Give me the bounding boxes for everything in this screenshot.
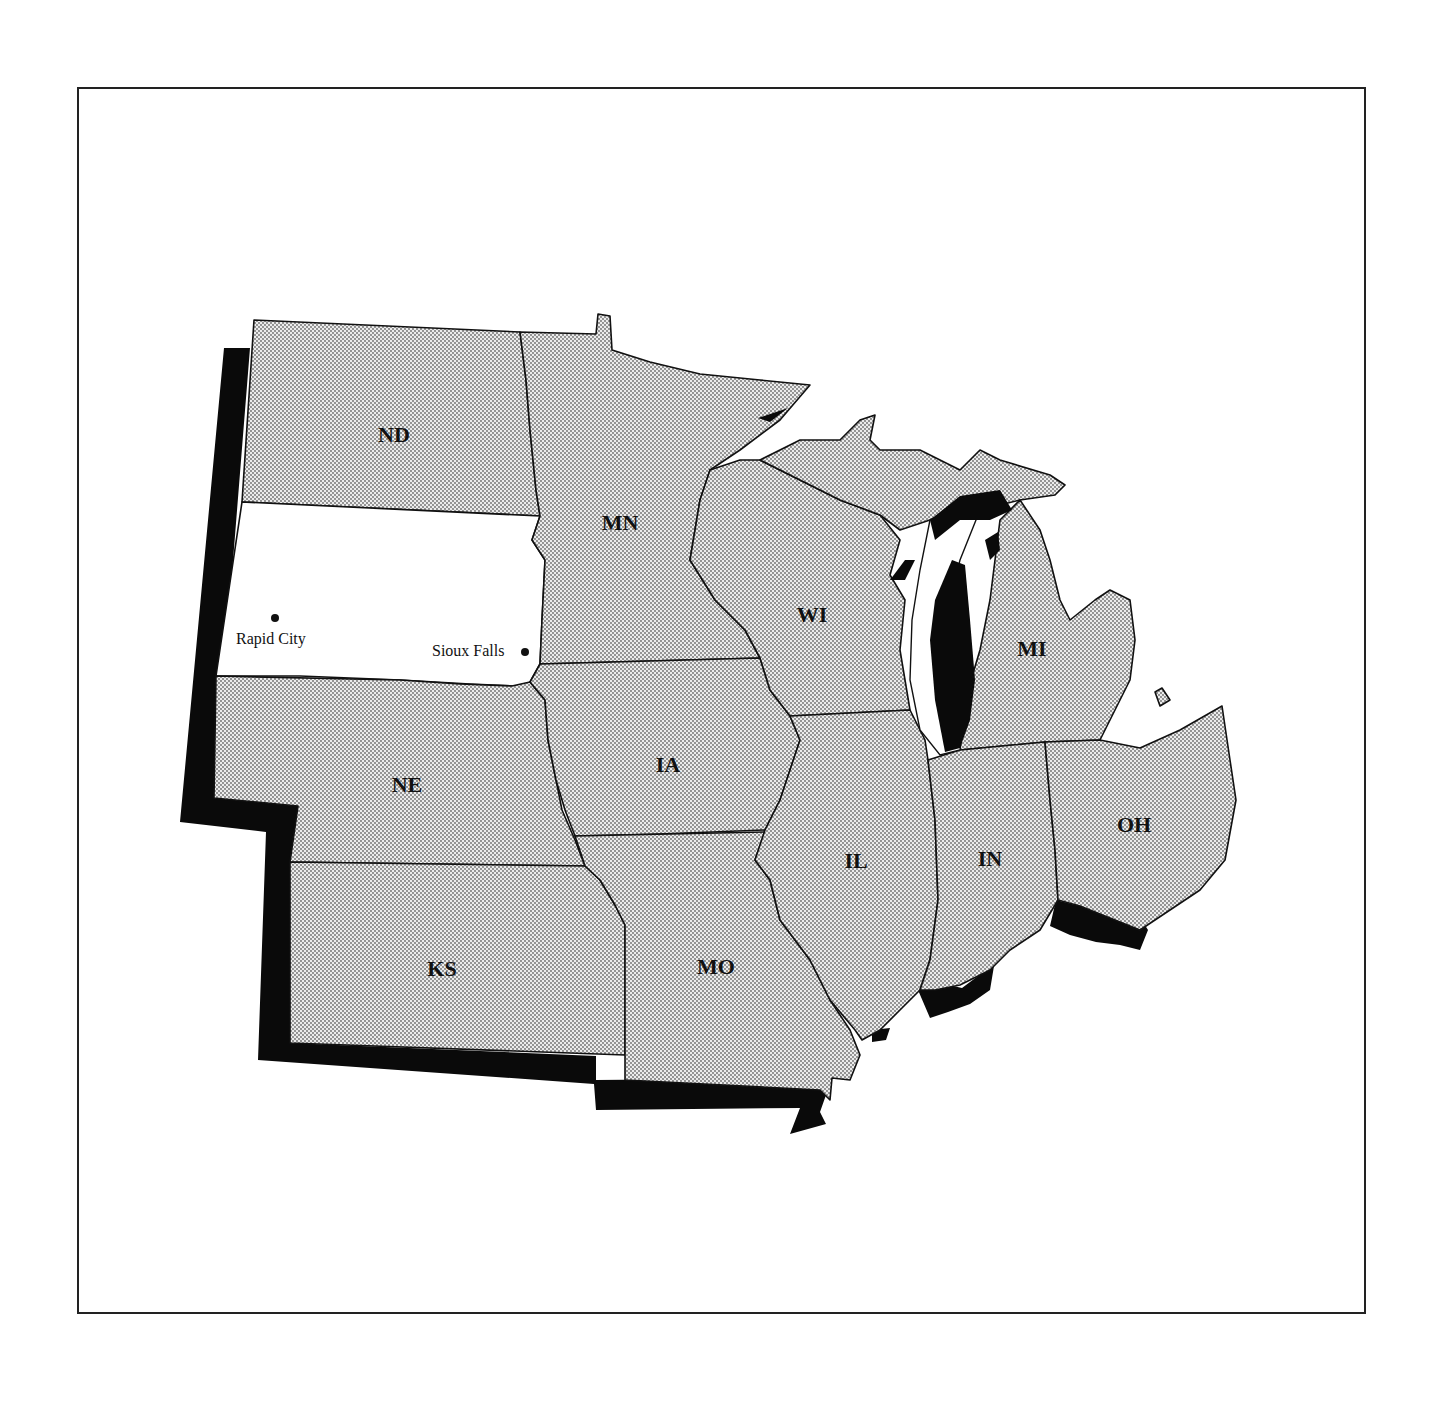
label-mn: MN (602, 510, 639, 535)
label-rapid-city: Rapid City (236, 630, 306, 648)
state-sd[interactable] (216, 502, 545, 690)
midwest-map: ND MN WI MI NE IA IL IN OH KS MO Rapid C… (0, 0, 1439, 1422)
label-sioux-falls: Sioux Falls (432, 642, 504, 659)
island (1155, 688, 1170, 706)
city-marker-rapid-city (271, 614, 279, 622)
label-wi: WI (797, 602, 828, 627)
label-mo: MO (697, 954, 735, 979)
label-mi: MI (1017, 636, 1046, 661)
label-in: IN (978, 846, 1003, 871)
label-ks: KS (427, 956, 456, 981)
label-ne: NE (392, 772, 423, 797)
label-ia: IA (656, 752, 681, 777)
city-marker-sioux-falls (521, 648, 529, 656)
state-nd[interactable] (242, 320, 540, 516)
label-il: IL (844, 848, 867, 873)
state-ks[interactable] (290, 862, 625, 1055)
state-mi-lower[interactable] (960, 500, 1135, 750)
label-oh: OH (1117, 812, 1151, 837)
label-nd: ND (378, 422, 410, 447)
state-ia[interactable] (530, 658, 800, 836)
